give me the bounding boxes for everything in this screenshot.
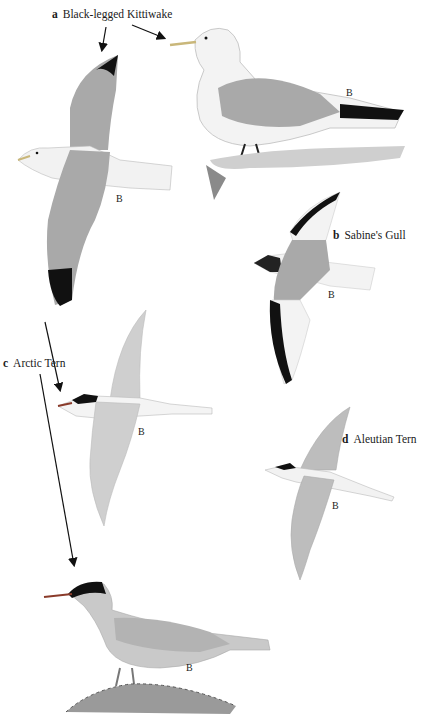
species-label-c: cArctic Tern <box>3 357 65 369</box>
kittiwake-flying-illustration <box>18 55 172 306</box>
species-letter-c: c <box>3 357 8 369</box>
species-letter-a: a <box>52 8 58 20</box>
kittiwake-standing-illustration <box>170 28 405 200</box>
mark-kittiwake-flying: B <box>116 193 123 204</box>
arctic-tern-flying-illustration <box>58 310 212 526</box>
species-letter-b: b <box>333 229 339 241</box>
species-name-b: Sabine's Gull <box>344 229 405 241</box>
species-label-b: bSabine's Gull <box>333 229 406 241</box>
mark-arctic-tern-flying: B <box>138 426 145 437</box>
mark-sabines-gull: B <box>328 289 335 300</box>
mark-kittiwake-standing: B <box>346 87 353 98</box>
field-guide-plate: aBlack-legged Kittiwake bSabine's Gull c… <box>0 0 428 719</box>
species-name-d: Aleutian Tern <box>353 433 416 445</box>
sabines-gull-illustration <box>254 192 375 384</box>
mark-aleutian-tern: B <box>332 500 339 511</box>
species-label-d: dAleutian Tern <box>342 433 417 445</box>
species-letter-d: d <box>342 433 348 445</box>
species-label-a: aBlack-legged Kittiwake <box>52 8 172 20</box>
arctic-tern-standing-illustration <box>44 582 270 714</box>
species-name-a: Black-legged Kittiwake <box>63 8 173 20</box>
species-name-c: Arctic Tern <box>13 357 65 369</box>
mark-arctic-tern-standing: B <box>186 662 193 673</box>
